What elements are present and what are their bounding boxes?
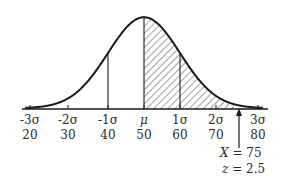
sigma-tick-label: 3σ — [243, 114, 273, 127]
sigma-tick-label: 1σ — [165, 114, 195, 127]
value-tick-label: 80 — [243, 129, 273, 142]
hatched-region — [144, 17, 234, 109]
z-value: = 2.5 — [232, 162, 265, 176]
value-tick-label: 50 — [129, 129, 159, 142]
value-tick-label: 70 — [201, 129, 231, 142]
x-75-arrow — [236, 108, 242, 148]
sigma-tick-label: 2σ — [201, 114, 231, 127]
shaded-area — [144, 17, 234, 109]
x-symbol: X — [220, 146, 229, 160]
value-tick-label: 40 — [93, 129, 123, 142]
sigma-tick-label: -2σ — [53, 114, 83, 127]
x-value-annotation: X = 75 — [220, 146, 262, 160]
z-value-annotation: z = 2.5 — [222, 162, 265, 176]
sigma-tick-label: μ — [129, 114, 159, 127]
value-tick-label: 60 — [165, 129, 195, 142]
z-symbol: z — [222, 162, 228, 176]
x-value: = 75 — [232, 146, 261, 160]
value-tick-label: 20 — [15, 129, 45, 142]
sigma-tick-label: -3σ — [15, 114, 45, 127]
sigma-tick-label: -1σ — [93, 114, 123, 127]
value-tick-label: 30 — [53, 129, 83, 142]
